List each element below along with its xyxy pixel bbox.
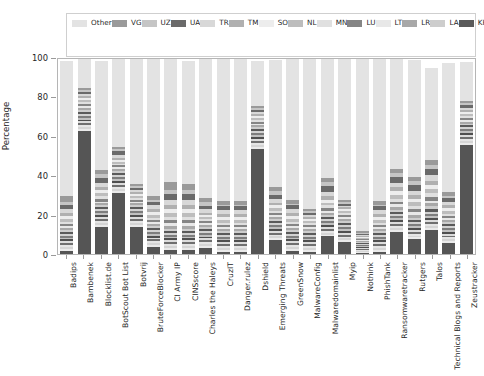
bar-column[interactable] bbox=[338, 59, 351, 254]
legend-swatch-lt bbox=[376, 20, 391, 27]
y-tick-label: 60 bbox=[16, 132, 48, 142]
x-tick-mark bbox=[258, 255, 259, 259]
y-axis-label: Percentage bbox=[1, 102, 11, 150]
x-tick-mark bbox=[223, 255, 224, 259]
bar-segment bbox=[251, 61, 264, 106]
bar-segment bbox=[95, 227, 108, 254]
bar-segment bbox=[373, 252, 386, 254]
legend-entry[interactable]: NL bbox=[288, 17, 317, 29]
legend-entry[interactable]: LT bbox=[376, 17, 403, 29]
legend-entry[interactable]: VG bbox=[112, 17, 142, 29]
legend-swatch-so bbox=[259, 20, 274, 27]
bar-column[interactable] bbox=[303, 59, 316, 254]
legend-label: NL bbox=[307, 19, 317, 27]
bar-column[interactable] bbox=[164, 59, 177, 254]
x-tick-label: Ransomwaretracker bbox=[400, 262, 409, 339]
y-tick-mark bbox=[51, 255, 56, 256]
x-tick-mark bbox=[467, 255, 468, 259]
bar-column[interactable] bbox=[356, 59, 369, 254]
legend-entry[interactable]: UA bbox=[171, 17, 200, 29]
bar-segment bbox=[373, 58, 386, 201]
bar-column[interactable] bbox=[251, 59, 264, 254]
legend-entry[interactable]: Other bbox=[72, 17, 112, 29]
y-tick-label: 0 bbox=[16, 250, 48, 260]
y-tick-label: 80 bbox=[16, 92, 48, 102]
bar-segment bbox=[60, 251, 73, 254]
bar-segment bbox=[425, 68, 438, 160]
bar-column[interactable] bbox=[95, 59, 108, 254]
x-tick-mark bbox=[240, 255, 241, 259]
legend-swatch-uz bbox=[142, 20, 157, 27]
bar-column[interactable] bbox=[78, 59, 91, 254]
y-tick-mark bbox=[51, 97, 56, 98]
x-tick-label: Badips bbox=[69, 262, 78, 288]
x-tick-label: Malwaredomainlist bbox=[331, 262, 340, 334]
x-tick-label: Dshield bbox=[261, 262, 270, 291]
x-tick-label: Blocklist.de bbox=[104, 262, 113, 306]
bar-column[interactable] bbox=[60, 59, 73, 254]
bar-segment bbox=[460, 62, 473, 101]
x-tick-mark bbox=[293, 255, 294, 259]
bar-column[interactable] bbox=[147, 59, 160, 254]
bar-column[interactable] bbox=[390, 59, 403, 254]
legend-label: UA bbox=[190, 19, 200, 27]
bar-segment bbox=[269, 240, 282, 254]
bar-segment bbox=[78, 59, 91, 87]
bar-segment bbox=[442, 243, 455, 254]
bar-column[interactable] bbox=[442, 59, 455, 254]
x-tick-mark bbox=[275, 255, 276, 259]
legend-entry[interactable]: UZ bbox=[142, 17, 171, 29]
legend-swatch-kh bbox=[459, 20, 474, 27]
legend-label: KH bbox=[478, 19, 484, 27]
bar-column[interactable] bbox=[286, 59, 299, 254]
legend-entry[interactable]: SO bbox=[259, 17, 288, 29]
bar-column[interactable] bbox=[460, 59, 473, 254]
legend-label: TM bbox=[248, 19, 259, 27]
bar-column[interactable] bbox=[408, 59, 421, 254]
bar-segment bbox=[303, 58, 316, 209]
legend-entry[interactable]: KH bbox=[459, 17, 484, 29]
x-tick-label: Zeustracker bbox=[470, 262, 479, 308]
bar-segment bbox=[78, 131, 91, 254]
x-tick-mark bbox=[328, 255, 329, 259]
x-tick-mark bbox=[450, 255, 451, 259]
bar-segment bbox=[251, 149, 264, 254]
bar-segment bbox=[234, 58, 247, 201]
bar-segment bbox=[164, 58, 177, 182]
legend-swatch-la bbox=[430, 20, 445, 27]
bar-column[interactable] bbox=[425, 59, 438, 254]
bar-segment bbox=[390, 232, 403, 254]
bar-column[interactable] bbox=[269, 59, 282, 254]
plot-area bbox=[57, 58, 476, 255]
bar-column[interactable] bbox=[321, 59, 334, 254]
legend-entry[interactable]: TR bbox=[200, 17, 229, 29]
legend-entry[interactable]: TM bbox=[229, 17, 259, 29]
bar-column[interactable] bbox=[199, 59, 212, 254]
stacked-bar-chart-figure: OtherVGUZUATRTMSONLMNLULTLRLAKHGNEEDZDMB… bbox=[0, 0, 484, 376]
bar-segment bbox=[199, 58, 212, 198]
legend-entry[interactable]: MN bbox=[317, 17, 348, 29]
bar-segment bbox=[112, 58, 125, 147]
bar-column[interactable] bbox=[217, 59, 230, 254]
chart-legend: OtherVGUZUATRTMSONLMNLULTLRLAKHGNEEDZDMB… bbox=[66, 13, 476, 57]
x-tick-label: Charles the Haleys bbox=[208, 262, 217, 334]
x-tick-mark bbox=[432, 255, 433, 259]
legend-swatch-tm bbox=[229, 20, 244, 27]
x-tick-label: PhishTank bbox=[383, 262, 392, 300]
bar-column[interactable] bbox=[373, 59, 386, 254]
legend-entry[interactable]: LU bbox=[347, 17, 375, 29]
bar-column[interactable] bbox=[234, 59, 247, 254]
bar-segment bbox=[234, 252, 247, 254]
legend-entry[interactable]: LR bbox=[402, 17, 430, 29]
bar-segment bbox=[147, 247, 160, 254]
legend-entry[interactable]: LA bbox=[430, 17, 458, 29]
x-tick-mark bbox=[345, 255, 346, 259]
bar-segment bbox=[321, 59, 334, 178]
bar-column[interactable] bbox=[130, 59, 143, 254]
x-tick-mark bbox=[66, 255, 67, 259]
bar-segment bbox=[182, 250, 195, 254]
bar-column[interactable] bbox=[182, 59, 195, 254]
x-tick-label: CI Army IP bbox=[173, 262, 182, 302]
bar-column[interactable] bbox=[112, 59, 125, 254]
legend-swatch-nl bbox=[288, 20, 303, 27]
